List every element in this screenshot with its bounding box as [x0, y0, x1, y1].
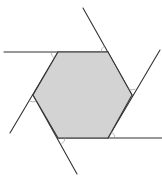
arc-bottom-right: [111, 132, 115, 138]
arc-right: [129, 89, 136, 90]
shaded-hexagon: [33, 52, 132, 138]
arc-top-right: [101, 46, 105, 52]
arc-bottom-left: [61, 138, 65, 144]
hexagon-exterior-angles-diagram: [0, 0, 162, 176]
arc-top-left: [51, 52, 54, 58]
arc-left: [30, 101, 37, 102]
